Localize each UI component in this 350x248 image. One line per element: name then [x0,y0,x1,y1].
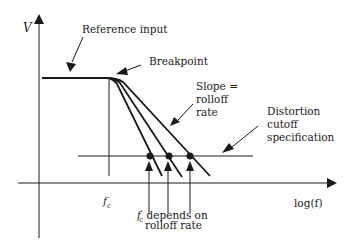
breakpoint-label: Breakpoint [149,55,208,68]
slope-label-line2: rolloff [196,93,228,106]
fc-label: fc [103,195,111,213]
intersection-dot-1 [147,153,154,160]
arrowhead-icon [170,117,180,126]
intersection-dot-3 [187,153,194,160]
arrowhead-icon [222,143,234,153]
arrowhead-icon [66,62,76,72]
intersection-dot-2 [166,153,173,160]
slope-pointer [178,104,193,120]
fc-subscript: c [107,202,111,210]
y-axis-arrow-icon [34,14,44,24]
slope-label-line1: Slope = [196,80,238,93]
rolloff-curve-medium [106,78,182,177]
slope-label-line3: rate [196,106,218,119]
reference-input-pointer [72,37,83,62]
arrowhead-icon [186,161,194,171]
distortion-label-line3: specification [267,131,334,144]
arrowhead-icon [116,67,128,75]
breakpoint-pointer [125,65,141,71]
distortion-label-line2: cutoff [267,118,298,131]
distortion-pointer [232,126,258,147]
depends-label-line2: rolloff rate [145,219,202,232]
x-axis-arrow-icon [327,178,337,188]
reference-input-label: Reference input [82,23,167,36]
arrowhead-icon [145,161,153,171]
x-axis-label: log(f) [294,197,322,210]
distortion-label-line1: Distortion [267,105,320,118]
y-axis-label: V [23,22,32,35]
arrowhead-icon [164,161,172,171]
